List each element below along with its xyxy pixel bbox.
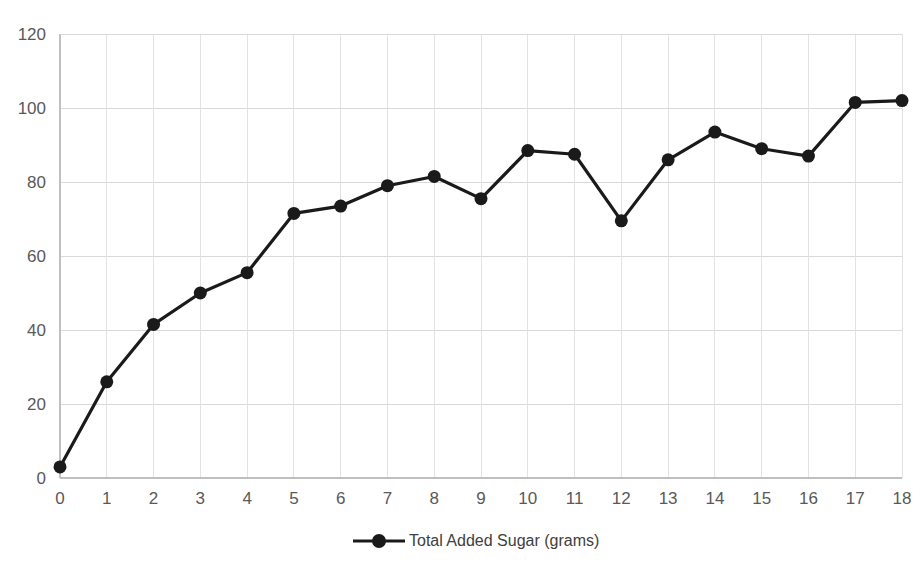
y-tick-label-2: 40 bbox=[27, 321, 46, 340]
x-tick-label-15: 15 bbox=[752, 489, 771, 508]
chart-canvas: 020406080100120 012345678910111213141516… bbox=[0, 0, 921, 563]
x-tick-label-12: 12 bbox=[612, 489, 631, 508]
legend-marker-swatch bbox=[372, 534, 386, 548]
data-point-6 bbox=[334, 200, 347, 213]
data-point-9 bbox=[475, 192, 488, 205]
x-tick-label-9: 9 bbox=[476, 489, 485, 508]
data-point-0 bbox=[54, 460, 67, 473]
data-point-8 bbox=[428, 170, 441, 183]
y-tick-label-5: 100 bbox=[18, 99, 46, 118]
data-point-17 bbox=[849, 96, 862, 109]
data-point-12 bbox=[615, 214, 628, 227]
data-point-5 bbox=[287, 207, 300, 220]
data-point-14 bbox=[708, 126, 721, 139]
x-tick-label-5: 5 bbox=[289, 489, 298, 508]
y-tick-label-3: 60 bbox=[27, 247, 46, 266]
data-point-15 bbox=[755, 142, 768, 155]
x-tick-label-7: 7 bbox=[383, 489, 392, 508]
data-point-18 bbox=[896, 94, 909, 107]
data-point-11 bbox=[568, 148, 581, 161]
data-point-16 bbox=[802, 150, 815, 163]
data-point-3 bbox=[194, 287, 207, 300]
data-point-2 bbox=[147, 318, 160, 331]
legend-label-total-added-sugar: Total Added Sugar (grams) bbox=[409, 532, 599, 549]
x-tick-label-4: 4 bbox=[242, 489, 251, 508]
line-chart: 020406080100120 012345678910111213141516… bbox=[0, 0, 921, 563]
y-tick-label-6: 120 bbox=[18, 25, 46, 44]
y-tick-label-1: 20 bbox=[27, 395, 46, 414]
x-tick-label-8: 8 bbox=[429, 489, 438, 508]
x-tick-label-11: 11 bbox=[566, 489, 584, 508]
x-tick-label-3: 3 bbox=[196, 489, 205, 508]
x-tick-label-13: 13 bbox=[659, 489, 678, 508]
x-tick-label-18: 18 bbox=[893, 489, 912, 508]
x-tick-label-16: 16 bbox=[799, 489, 818, 508]
data-point-1 bbox=[100, 375, 113, 388]
x-tick-label-1: 1 bbox=[102, 489, 111, 508]
x-tick-label-10: 10 bbox=[518, 489, 537, 508]
x-tick-label-0: 0 bbox=[55, 489, 64, 508]
data-point-7 bbox=[381, 179, 394, 192]
x-tick-label-17: 17 bbox=[846, 489, 865, 508]
data-point-10 bbox=[521, 144, 534, 157]
x-tick-label-2: 2 bbox=[149, 489, 158, 508]
data-point-4 bbox=[241, 266, 254, 279]
y-tick-label-0: 0 bbox=[37, 469, 46, 488]
x-tick-label-14: 14 bbox=[705, 489, 724, 508]
y-tick-label-4: 80 bbox=[27, 173, 46, 192]
x-tick-label-6: 6 bbox=[336, 489, 345, 508]
data-point-13 bbox=[662, 153, 675, 166]
